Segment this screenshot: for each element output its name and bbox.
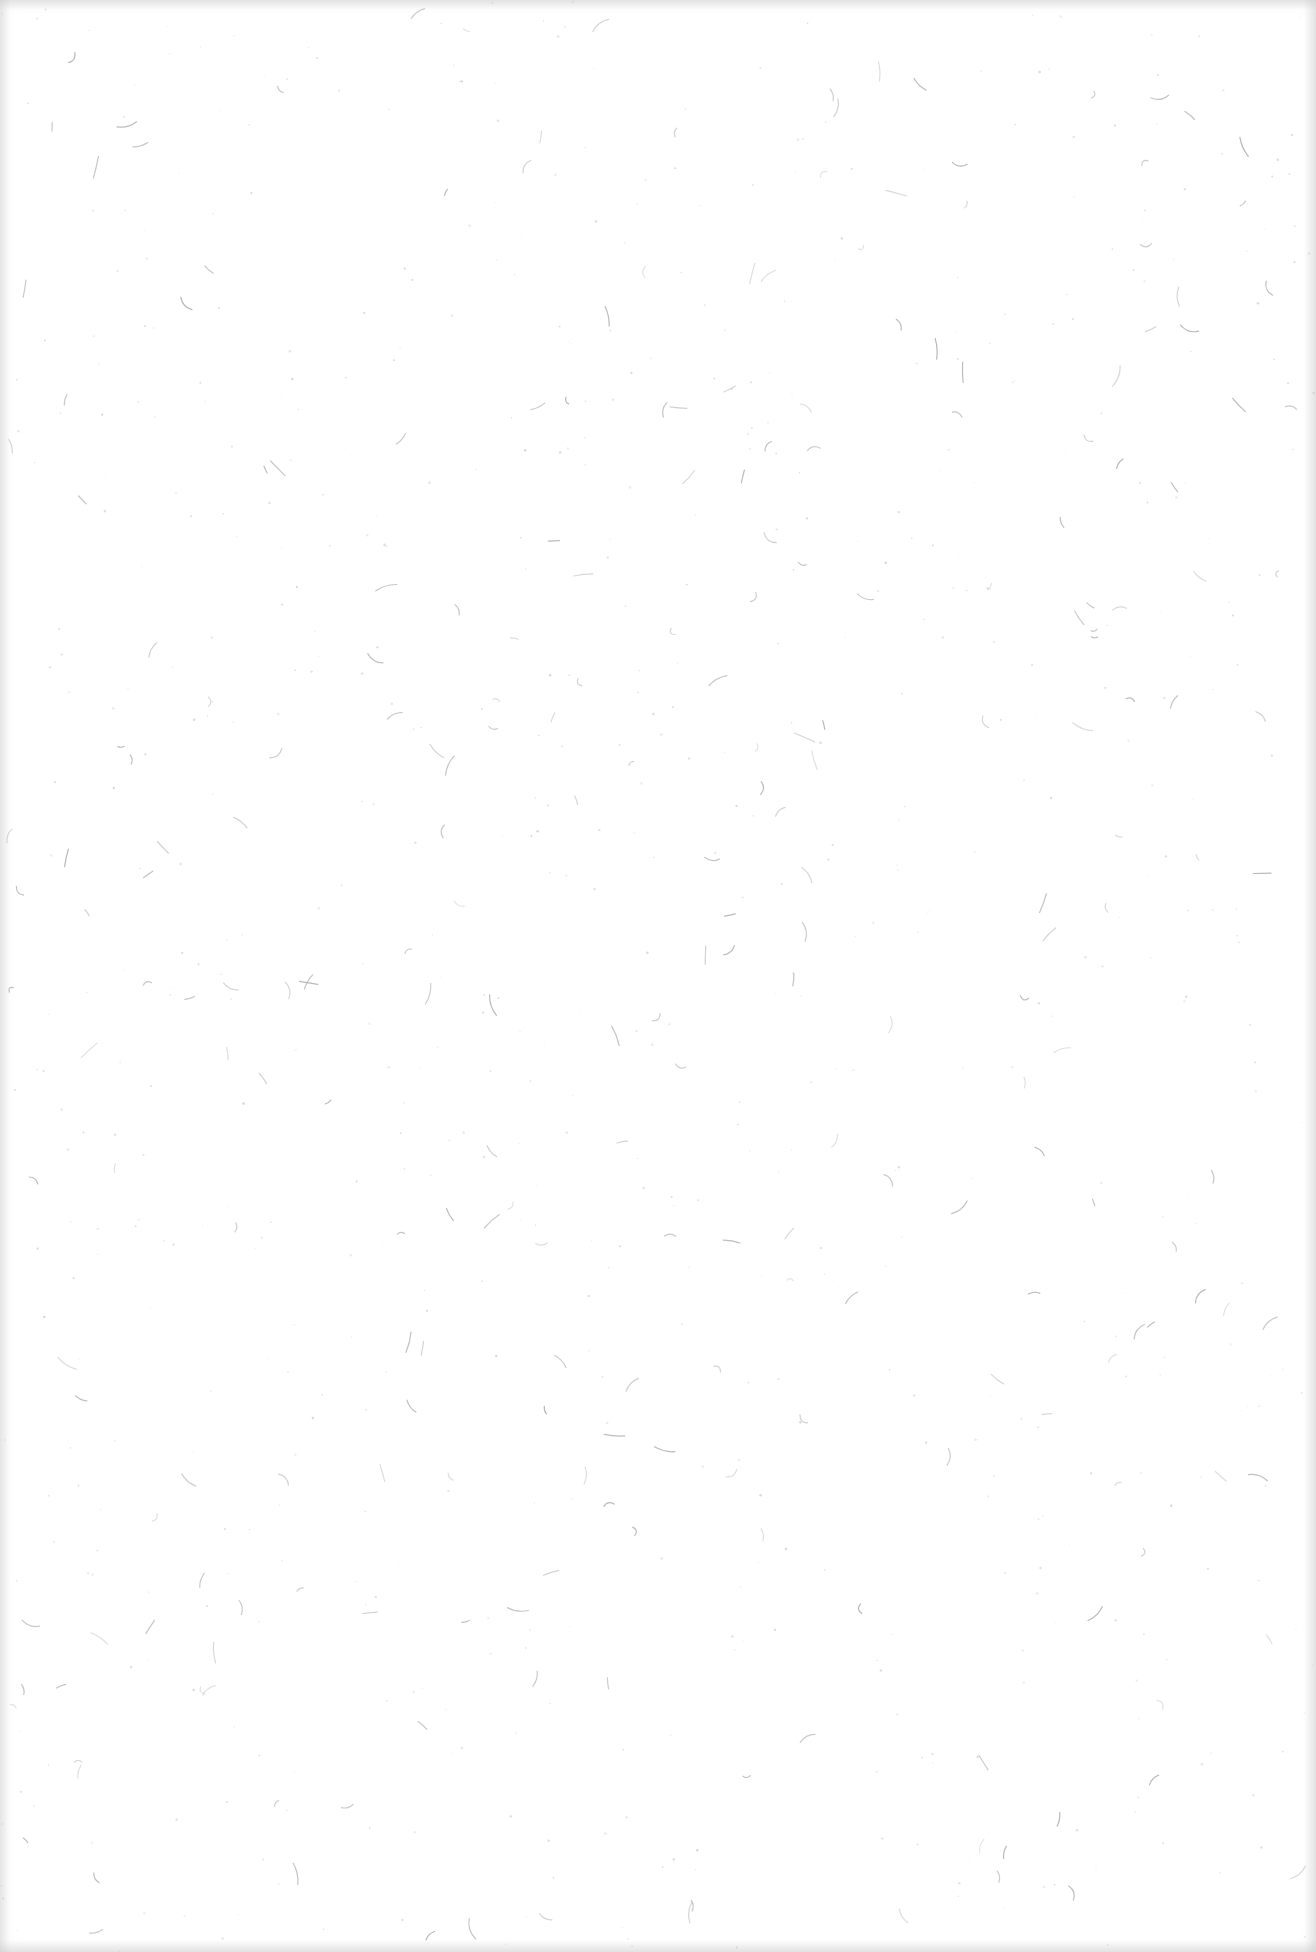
paper-fiber-texture (0, 0, 1316, 1952)
textured-paper-sheet (0, 0, 1316, 1952)
